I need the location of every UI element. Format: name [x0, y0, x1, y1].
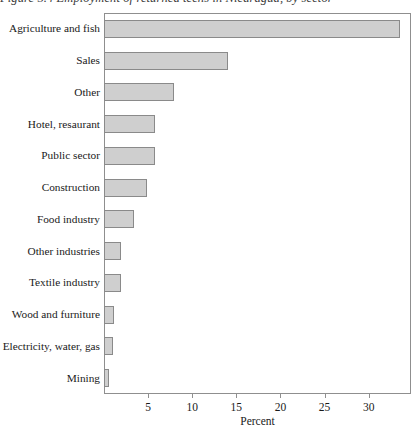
x-axis-tick-label: 20	[260, 400, 300, 414]
bar	[104, 274, 121, 292]
figure-container: Figure 5.4 Employment of returned teens …	[0, 0, 419, 434]
y-axis-category-labels: Agriculture and fishSalesOtherHotel, res…	[0, 13, 100, 394]
bar	[104, 337, 113, 355]
y-axis-tick-label: Other	[0, 86, 100, 99]
x-axis-tick-mark	[280, 394, 281, 398]
y-axis-tick-label: Textile industry	[0, 276, 100, 289]
x-axis-tick-mark	[192, 394, 193, 398]
y-axis-tick-label: Wood and furniture	[0, 308, 100, 321]
bar	[104, 20, 400, 38]
bar	[104, 306, 114, 324]
y-axis-tick-label: Hotel, resaurant	[0, 118, 100, 131]
y-axis-tick-label: Mining	[0, 372, 100, 385]
x-axis-tick-mark	[369, 394, 370, 398]
bar	[104, 115, 155, 133]
x-axis-tick-label: 25	[305, 400, 345, 414]
bar	[104, 179, 147, 197]
y-axis-tick-label: Food industry	[0, 213, 100, 226]
y-axis-tick-label: Public sector	[0, 149, 100, 162]
bar	[104, 52, 228, 70]
y-axis-tick-label: Other industries	[0, 245, 100, 258]
x-axis-tick-label: 30	[349, 400, 389, 414]
bar	[104, 83, 174, 101]
figure-caption: Figure 5.4 Employment of returned teens …	[0, 0, 419, 5]
x-axis-title: Percent	[104, 414, 411, 428]
bar	[104, 242, 121, 260]
x-axis-tick-mark	[236, 394, 237, 398]
x-axis-tick-label: 5	[128, 400, 168, 414]
y-axis-tick-label: Agriculture and fish	[0, 22, 100, 35]
x-axis-tick-label: 10	[172, 400, 212, 414]
y-axis-tick-label: Construction	[0, 181, 100, 194]
bar	[104, 369, 109, 387]
x-axis-tick-label: 15	[216, 400, 256, 414]
x-axis-tick-mark	[148, 394, 149, 398]
y-axis-tick-label: Sales	[0, 54, 100, 67]
x-axis-tick-mark	[325, 394, 326, 398]
bars-layer	[104, 13, 411, 394]
y-axis-tick-label: Electricity, water, gas	[0, 340, 100, 353]
bar	[104, 147, 155, 165]
bar	[104, 210, 134, 228]
